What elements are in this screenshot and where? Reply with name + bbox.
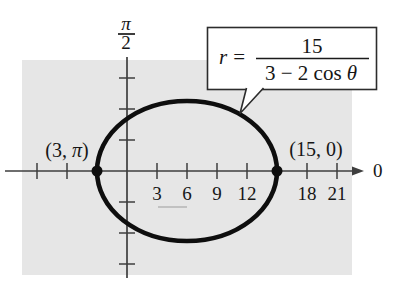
polar-axis-label: 0 [373,160,383,181]
polar-graph-figure: π 2 3 6 9 12 18 21 0 (3, π) (15, 0) r= 1… [0,0,396,295]
vertex-dot-right [272,166,283,177]
vertical-axis-label: π 2 [118,13,135,53]
x-tick-label: 9 [212,183,222,204]
x-tick-label: 21 [328,183,347,204]
vertex-dot-left [92,166,103,177]
x-tick-label: 18 [298,183,317,204]
x-tick-label: 12 [238,183,257,204]
figure-canvas: π 2 3 6 9 12 18 21 0 (3, π) (15, 0) r= 1… [0,0,396,295]
point-label-right: (15, 0) [289,138,342,161]
pi-numerator: π [121,13,131,34]
equation-numerator: 15 [302,34,323,58]
two-denominator: 2 [121,32,131,53]
x-tick-label: 6 [182,183,192,204]
x-tick-label: 3 [152,183,162,204]
polar-axis-arrowhead [352,166,364,175]
point-label-left: (3, π) [45,139,88,162]
